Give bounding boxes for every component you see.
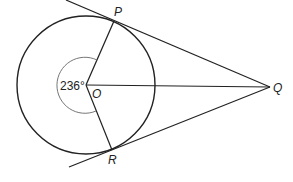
geometry-diagram: 236° O P R Q xyxy=(0,0,293,182)
angle-label: 236° xyxy=(60,79,85,93)
point-label-p: P xyxy=(114,5,122,19)
tangent-line-pq xyxy=(66,0,270,87)
line-oq xyxy=(86,85,270,87)
point-label-r: R xyxy=(108,153,117,167)
point-label-o: O xyxy=(92,87,101,101)
point-label-q: Q xyxy=(273,81,282,95)
radius-op xyxy=(86,21,114,85)
